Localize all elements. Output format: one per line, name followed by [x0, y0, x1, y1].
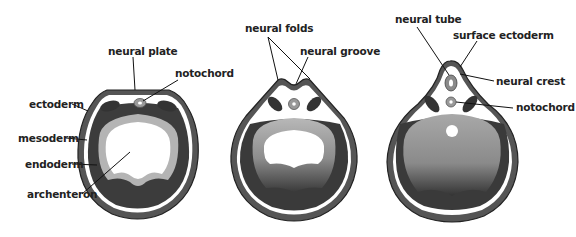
- label-neural-folds: neural folds: [245, 22, 313, 34]
- label-neural-groove: neural groove: [300, 45, 380, 57]
- embryo-neural-groove-stage: [231, 37, 357, 221]
- archenteron: [264, 130, 324, 168]
- archenteron: [446, 125, 458, 137]
- label-surface-ectoderm: surface ectoderm: [453, 29, 554, 41]
- label-notochord: notochord: [175, 67, 234, 79]
- label-archenteron: archenteron: [27, 188, 97, 200]
- label-neural-crest: neural crest: [496, 75, 565, 87]
- label-endoderm: endoderm: [25, 158, 83, 170]
- label-neural-tube: neural tube: [395, 13, 462, 25]
- label-neural-plate: neural plate: [108, 45, 178, 57]
- label-ectoderm: ectoderm: [29, 98, 84, 110]
- archenteron: [106, 122, 171, 179]
- label-mesoderm: mesoderm: [18, 132, 79, 144]
- label-notochord-3: notochord: [516, 101, 575, 113]
- embryo-neural-tube-stage: [387, 27, 518, 222]
